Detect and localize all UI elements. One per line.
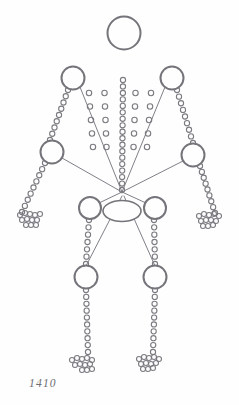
spine-dot [120, 136, 125, 141]
foot-left-dot [78, 362, 83, 367]
shin-right-dot [151, 343, 156, 348]
spine-dot [120, 162, 125, 167]
spine-dot [120, 90, 125, 95]
upper-arm-left-dot [50, 131, 55, 136]
hand-left-dot [38, 212, 43, 217]
hand-right-dot [199, 219, 204, 224]
forearm-left-dot [25, 197, 30, 202]
shin-right-dot [151, 329, 156, 334]
spine-dot [120, 149, 125, 154]
foot-right-dot [142, 355, 147, 360]
forearm-right-dot [203, 181, 208, 186]
forearm-right [197, 163, 217, 215]
spine-dot [120, 142, 125, 147]
hand-right [197, 212, 222, 229]
forearm-left-dot [37, 173, 42, 178]
shin-left-dot [84, 315, 89, 320]
torso-grid-dot [104, 144, 109, 149]
foot-right [137, 355, 162, 372]
hand-left [18, 211, 43, 228]
upper-arm-left-dot [52, 125, 57, 130]
upper-arm-right-dot [176, 94, 181, 99]
shin-right-dot [151, 322, 156, 327]
forearm-left-dot [34, 179, 39, 184]
foot-right-dot [144, 361, 149, 366]
joint-elbow-left [41, 141, 64, 164]
torso-grid-dot [132, 117, 137, 122]
joint-elbow-right [182, 144, 205, 167]
forearm-left-dot [31, 185, 36, 190]
upper-arm-left-dot [56, 112, 61, 117]
line-shoulder-right [122, 87, 165, 192]
upper-arm-right-dot [188, 134, 193, 139]
hand-right-dot [197, 214, 202, 219]
torso-grid-dot [103, 131, 108, 136]
thigh-left-dot [85, 232, 90, 237]
shin-right-dot [150, 349, 155, 354]
hand-right-dot [209, 218, 214, 223]
foot-left-dot [90, 367, 95, 372]
spine-dot [120, 168, 125, 173]
torso-grid-dot [132, 104, 137, 109]
torso-grid-dot [86, 90, 91, 95]
shin-right-dot [152, 294, 157, 299]
shin-right-dot [151, 336, 156, 341]
extremity-clusters-layer [18, 211, 222, 373]
spine-dot [120, 97, 125, 102]
torso-grid-dot [89, 131, 94, 136]
shin-right [150, 287, 157, 354]
foot-right-dot [152, 355, 157, 360]
hand-left-dot [28, 212, 33, 217]
foot-left-dot [85, 356, 90, 361]
shin-left-dot [84, 294, 89, 299]
torso-grid-dot [144, 144, 149, 149]
foot-left-dot [85, 368, 90, 373]
upper-arm-right-dot [184, 121, 189, 126]
upper-arm-right-dot [178, 101, 183, 106]
line-shoulder-left [80, 87, 122, 192]
upper-arm-right [174, 87, 195, 145]
hand-left-dot [33, 213, 38, 218]
shin-left-dot [85, 343, 90, 348]
human-figure-diagram [0, 0, 239, 405]
foot-right-dot [141, 367, 146, 372]
shin-left-dot [84, 308, 89, 313]
foot-left-dot [75, 356, 80, 361]
torso-grid-dot [102, 104, 107, 109]
thigh-right-dot [152, 239, 157, 244]
upper-arm-right-dot [182, 114, 187, 119]
thigh-right-dot [152, 254, 157, 259]
upper-arm-left-dot [59, 106, 64, 111]
spine [119, 77, 125, 192]
hand-left-dot [34, 223, 39, 228]
joint-hip-right [144, 197, 166, 219]
spine-dot [120, 77, 125, 82]
forearm-right-dot [209, 199, 214, 204]
torso-grid-dot [102, 90, 107, 95]
shin-left-dot [85, 322, 90, 327]
forearm-left-dot [22, 203, 27, 208]
hand-right-dot [217, 214, 222, 219]
spine-dot [120, 84, 125, 89]
spine-dot [120, 103, 125, 108]
torso-grid-dot [131, 131, 136, 136]
spine-dot [120, 110, 125, 115]
hand-left-dot [25, 217, 30, 222]
joint-hip-left [79, 197, 101, 219]
foot-right-dot [154, 361, 159, 366]
shin-right-dot [152, 308, 157, 313]
figure-caption: 1410 [29, 377, 57, 389]
torso-grid-dot [133, 90, 138, 95]
forearm-right-dot [211, 205, 216, 210]
radiating-lines-layer [62, 87, 183, 266]
thigh-left-dot [85, 239, 90, 244]
shin-left [83, 287, 90, 354]
shin-right-dot [152, 301, 157, 306]
hand-right-dot [204, 218, 209, 223]
hand-left-dot [20, 218, 25, 223]
foot-right-dot [147, 356, 152, 361]
hand-right-dot [206, 224, 211, 229]
torso-grid-dot [147, 104, 152, 109]
joint-shoulder-right [161, 67, 184, 90]
figure-page: 1410 [0, 0, 239, 405]
